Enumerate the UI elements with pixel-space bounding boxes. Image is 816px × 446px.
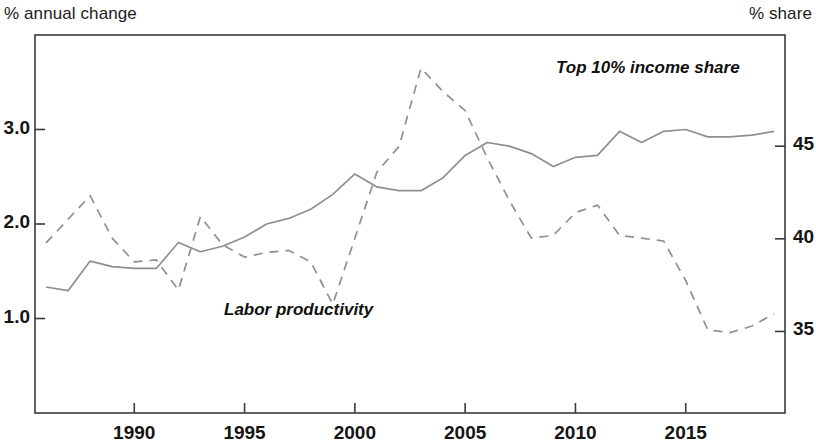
x-tick-label-2005: 2005	[430, 422, 500, 444]
series-lines	[46, 68, 774, 333]
x-axis-ticks	[134, 403, 685, 413]
plot-frame	[35, 35, 785, 413]
y-tick-label-left-1.0: 1.0	[0, 306, 30, 328]
right-axis-ticks	[775, 146, 785, 331]
x-tick-label-2010: 2010	[540, 422, 610, 444]
y-tick-label-right-35: 35	[793, 318, 816, 340]
x-tick-label-1995: 1995	[210, 422, 280, 444]
y-tick-label-right-45: 45	[793, 133, 816, 155]
y-tick-label-right-40: 40	[793, 226, 816, 248]
series-line-labor-productivity	[46, 68, 774, 333]
chart-figure: % annual change % share 1.02.03.03540451…	[0, 0, 816, 446]
y-tick-label-left-3.0: 3.0	[0, 117, 30, 139]
x-tick-label-1990: 1990	[99, 422, 169, 444]
y-tick-label-left-2.0: 2.0	[0, 211, 30, 233]
series-label-top-income-share: Top 10% income share	[556, 58, 740, 78]
left-axis-ticks	[35, 130, 45, 319]
x-tick-label-2015: 2015	[651, 422, 721, 444]
series-label-labor-productivity: Labor productivity	[224, 300, 373, 320]
series-line-top-income-share	[46, 130, 774, 291]
x-tick-label-2000: 2000	[320, 422, 390, 444]
